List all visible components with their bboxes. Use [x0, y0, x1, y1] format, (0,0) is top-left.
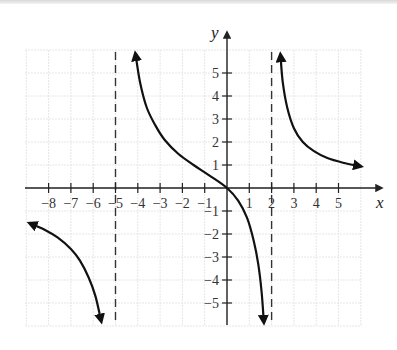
x-tick-label: 2	[268, 196, 275, 211]
y-tick-label: −2	[204, 227, 219, 242]
x-tick-label: 5	[335, 196, 342, 211]
x-tick-label: 4	[313, 196, 320, 211]
x-tick-label: −4	[130, 196, 145, 211]
y-tick-label: 5	[212, 66, 219, 81]
y-tick-label: −3	[204, 250, 219, 265]
y-tick-label: −5	[204, 296, 219, 311]
y-tick-label: 2	[212, 135, 219, 150]
x-tick-label: −7	[63, 196, 78, 211]
y-tick-label: 4	[212, 89, 219, 104]
x-tick-label: 1	[246, 196, 253, 211]
x-tick-label: −8	[41, 196, 56, 211]
right-branch	[281, 56, 360, 166]
x-axis-label: x	[375, 193, 384, 212]
x-tick-label: −6	[86, 196, 101, 211]
y-tick-label: 1	[212, 158, 219, 173]
x-tick-label: −3	[153, 196, 168, 211]
y-tick-label: −1	[204, 204, 219, 219]
x-tick-label: −2	[175, 196, 190, 211]
rational-function-graph: −8−7−6−5−4−3−2−11234554321−1−2−3−4−5 x y	[0, 0, 397, 350]
x-tick-label: −5	[108, 196, 123, 211]
y-axis-label: y	[209, 23, 219, 42]
y-tick-label: −4	[204, 273, 219, 288]
y-tick-label: 3	[212, 112, 219, 127]
left-branch	[31, 224, 101, 321]
x-tick-label: 3	[290, 196, 297, 211]
